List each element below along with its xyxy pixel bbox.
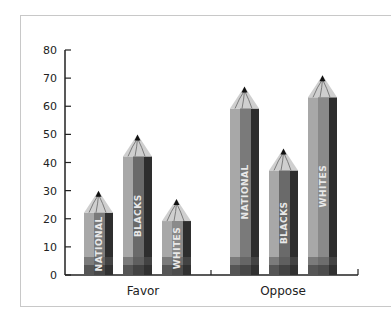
- pencil-label: WHITES: [318, 165, 328, 208]
- y-tick-label: 60: [43, 100, 57, 113]
- y-tick-label: 70: [43, 72, 57, 85]
- pencil-bar-national: NATIONAL: [84, 191, 113, 275]
- category-label: Oppose: [260, 284, 306, 298]
- y-tick-label: 40: [43, 157, 57, 170]
- pencil-label: NATIONAL: [94, 216, 104, 271]
- pencil-bar-blacks: BLACKS: [269, 148, 298, 275]
- pencil-label: NATIONAL: [240, 164, 250, 219]
- pencil-bar-whites: WHITES: [162, 199, 191, 275]
- y-tick-label: 0: [50, 269, 57, 282]
- y-tick-label: 30: [43, 185, 57, 198]
- pencil-label: WHITES: [172, 227, 182, 270]
- y-tick-label: 50: [43, 128, 57, 141]
- pencil-bar-blacks: BLACKS: [123, 134, 152, 275]
- y-tick-label: 80: [43, 44, 57, 57]
- pencil-bar-whites: WHITES: [308, 75, 337, 275]
- category-label: Favor: [127, 284, 160, 298]
- y-tick-label: 20: [43, 213, 57, 226]
- y-tick-label: 10: [43, 241, 57, 254]
- pencil-bar-national: NATIONAL: [230, 87, 259, 275]
- pencil-label: BLACKS: [279, 201, 289, 244]
- pencil-label: BLACKS: [133, 194, 143, 237]
